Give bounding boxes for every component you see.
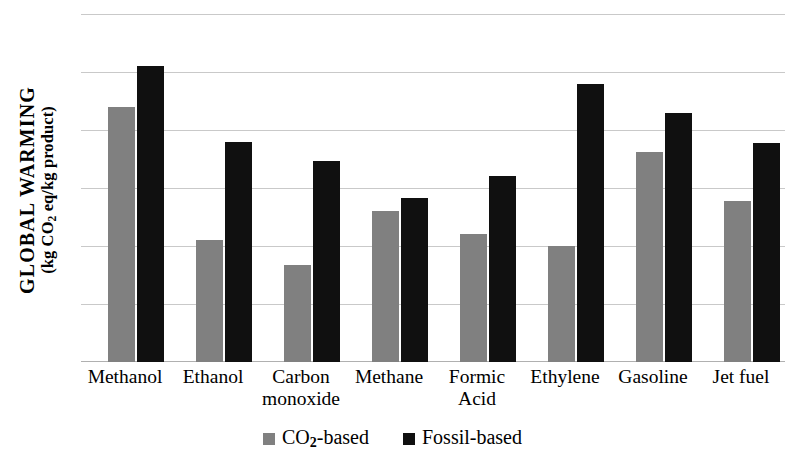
- x-axis-label-line: Gasoline: [609, 366, 697, 388]
- x-axis-label: Ethanol: [169, 366, 257, 388]
- bar-fossil-based: [753, 143, 780, 362]
- x-axis-label-line: Methanol: [81, 366, 169, 388]
- x-axis-label: Methane: [345, 366, 433, 388]
- bar-co2-based: [460, 234, 487, 362]
- bar-group: [257, 14, 345, 362]
- x-axis-label-line: Ethanol: [169, 366, 257, 388]
- x-axis-label-line: monoxide: [257, 388, 345, 410]
- bar-fossil-based: [313, 161, 340, 362]
- bar-fossil-based: [489, 176, 516, 362]
- bar-co2-based: [284, 265, 311, 362]
- x-axis-label: FormicAcid: [433, 366, 521, 410]
- x-axis-label-line: Acid: [433, 388, 521, 410]
- bar-group: [521, 14, 609, 362]
- bar-group: [81, 14, 169, 362]
- legend-label-suffix: -based: [317, 426, 369, 448]
- x-axis-label-line: Methane: [345, 366, 433, 388]
- chart-legend: CO2-basedFossil-based: [0, 426, 785, 449]
- bar-co2-based: [108, 107, 135, 362]
- bar-group: [345, 14, 433, 362]
- x-axis-label: Gasoline: [609, 366, 697, 388]
- y-axis-title-line-2: (kg CO2 eq/kg product): [39, 106, 56, 274]
- y-axis-title-subscript: 2: [46, 216, 58, 222]
- bar-co2-based: [636, 152, 663, 362]
- x-axis-label: Methanol: [81, 366, 169, 388]
- legend-swatch-icon: [263, 433, 275, 445]
- legend-label-prefix: CO: [282, 426, 310, 448]
- bar-co2-based: [196, 240, 223, 362]
- x-axis-label-line: Ethylene: [521, 366, 609, 388]
- y-axis-title: GLOBAL WARMING (kg CO2 eq/kg product): [15, 40, 59, 340]
- legend-item-fossil-based[interactable]: Fossil-based: [403, 426, 522, 449]
- legend-swatch-icon: [403, 433, 415, 445]
- y-axis-title-line-2-suffix: eq/kg product): [38, 106, 57, 215]
- bar-group: [169, 14, 257, 362]
- x-axis-label: Jet fuel: [697, 366, 785, 388]
- y-axis-title-line-1: GLOBAL WARMING: [17, 86, 38, 294]
- global-warming-bar-chart: GLOBAL WARMING (kg CO2 eq/kg product) 01…: [0, 0, 785, 457]
- x-axis-label: Ethylene: [521, 366, 609, 388]
- legend-item-co2-based[interactable]: CO2-based: [263, 426, 369, 449]
- bars-layer: [81, 14, 785, 362]
- x-axis-label-line: Carbon: [257, 366, 345, 388]
- bar-group: [433, 14, 521, 362]
- x-axis-label: Carbonmonoxide: [257, 366, 345, 410]
- bar-fossil-based: [137, 66, 164, 362]
- plot-area: 0123456: [81, 14, 785, 362]
- legend-label-subscript: 2: [310, 435, 317, 450]
- bar-co2-based: [548, 246, 575, 362]
- bar-fossil-based: [401, 198, 428, 362]
- x-axis-label-line: Formic: [433, 366, 521, 388]
- x-axis-category-labels: MethanolEthanolCarbonmonoxideMethaneForm…: [81, 366, 785, 422]
- bar-co2-based: [724, 201, 751, 362]
- bar-fossil-based: [665, 113, 692, 362]
- bar-fossil-based: [225, 142, 252, 362]
- legend-label: CO2-based: [282, 426, 369, 449]
- bar-fossil-based: [577, 84, 604, 362]
- x-axis-label-line: Jet fuel: [697, 366, 785, 388]
- y-axis-title-line-2-prefix: (kg CO: [38, 221, 57, 273]
- bar-group: [609, 14, 697, 362]
- bar-group: [697, 14, 785, 362]
- legend-label: Fossil-based: [422, 426, 522, 449]
- bar-co2-based: [372, 211, 399, 362]
